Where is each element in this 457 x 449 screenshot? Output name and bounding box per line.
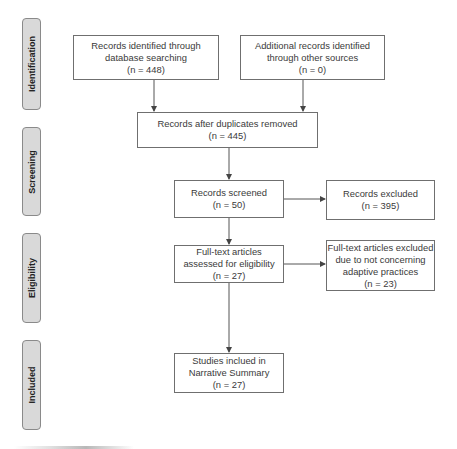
box-text: Studies inclued in <box>192 355 266 367</box>
box-text: Additional records identified <box>255 40 370 52</box>
phase-label: Screening <box>27 150 37 194</box>
box-database-search: Records identified through database sear… <box>73 35 219 80</box>
box-count: (n = 0) <box>299 64 326 76</box>
phase-identification: Identification <box>22 18 41 110</box>
prisma-flow-diagram: Identification Screening Eligibility Inc… <box>0 0 457 449</box>
phase-included: Included <box>22 340 41 430</box>
box-count: (n = 27) <box>213 270 246 282</box>
box-text: Full-text articles excluded <box>328 242 434 254</box>
box-excluded: Records excluded (n = 395) <box>326 180 435 220</box>
box-count: (n = 448) <box>127 64 165 76</box>
box-text: assessed for eligibility <box>183 258 274 270</box>
box-other-sources: Additional records identified through ot… <box>240 35 385 80</box>
box-fulltext-assessed: Full-text articles assessed for eligibil… <box>174 245 284 283</box>
box-count: (n = 23) <box>364 278 397 290</box>
box-count: (n = 50) <box>213 199 246 211</box>
box-count: (n = 445) <box>209 130 247 142</box>
box-text: Full-text articles <box>196 246 262 258</box>
box-text: Records screened <box>191 187 267 199</box>
box-text: Records identified through <box>91 40 200 52</box>
box-text: due to not concerning <box>335 254 425 266</box>
box-screened: Records screened (n = 50) <box>174 180 284 218</box>
box-count: (n = 395) <box>362 200 400 212</box>
box-text: through other sources <box>267 52 358 64</box>
box-text: adaptive practices <box>343 266 419 278</box>
phase-screening: Screening <box>22 127 41 216</box>
box-included: Studies inclued in Narrative Summary (n … <box>174 353 284 393</box>
phase-label: Included <box>27 366 37 403</box>
phase-label: Identification <box>27 36 37 92</box>
box-after-duplicates: Records after duplicates removed (n = 44… <box>137 112 318 148</box>
box-count: (n = 27) <box>213 379 246 391</box>
box-fulltext-excluded: Full-text articles excluded due to not c… <box>326 240 435 291</box>
box-text: Records after duplicates removed <box>157 118 297 130</box>
box-text: database searching <box>105 52 187 64</box>
box-text: Narrative Summary <box>189 367 270 379</box>
phase-label: Eligibility <box>27 258 37 298</box>
phase-eligibility: Eligibility <box>22 233 41 323</box>
box-text: Records excluded <box>343 188 418 200</box>
